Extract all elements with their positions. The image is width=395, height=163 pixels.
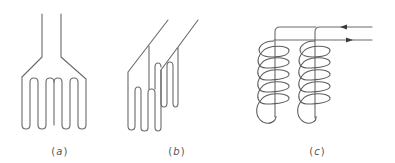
panel-a-label-text: (a) — [51, 146, 68, 157]
panel-a-left-lead — [22, 14, 54, 129]
panel-c-right-coil — [298, 41, 330, 123]
panel-c-left-coil — [257, 41, 289, 123]
panel-b-front-top-fold — [155, 63, 161, 89]
panel-b-back-element — [128, 20, 168, 131]
panel-c-top-lead — [315, 27, 372, 118]
panel-a-serpentine — [22, 14, 86, 129]
arrow-right-icon — [346, 38, 353, 43]
panel-b-label-text: (b) — [168, 146, 185, 157]
arrow-left-icon — [340, 25, 347, 30]
panel-c-label: (c) — [301, 135, 326, 157]
panel-c-label-text: (c) — [309, 146, 325, 157]
panel-b-offset-serpentines — [128, 20, 198, 131]
panel-b-front-element — [161, 20, 198, 107]
panel-c-helical-coils — [257, 25, 372, 124]
panel-b-label: (b) — [160, 135, 186, 157]
panel-a-right-lead — [54, 14, 86, 129]
panel-a-label: (a) — [43, 135, 68, 157]
